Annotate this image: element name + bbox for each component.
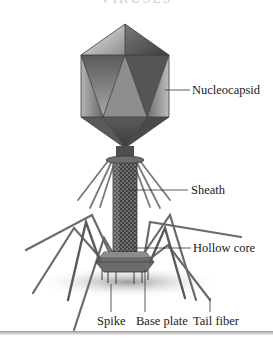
icosahedral-head bbox=[81, 24, 169, 148]
label-spike: Spike bbox=[97, 315, 125, 328]
label-hollow-core: Hollow core bbox=[193, 242, 255, 255]
label-tail-fiber: Tail fiber bbox=[193, 315, 239, 328]
label-base-plate: Base plate bbox=[136, 315, 188, 328]
bottom-divider bbox=[0, 331, 273, 335]
base-plate bbox=[96, 252, 154, 272]
label-nucleocapsid: Nucleocapsid bbox=[192, 84, 260, 97]
label-sheath: Sheath bbox=[191, 184, 225, 197]
bacteriophage-diagram: VIRUSES bbox=[0, 0, 273, 342]
phage-illustration bbox=[0, 0, 273, 342]
collar bbox=[106, 146, 144, 164]
sheath bbox=[113, 163, 137, 253]
